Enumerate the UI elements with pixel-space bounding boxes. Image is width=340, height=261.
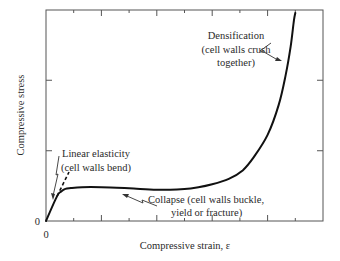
stress-strain-diagram: 0 0 Compressive strain, ε Compressive st… — [0, 0, 340, 261]
y-tick-label-0: 0 — [35, 216, 40, 227]
annotation-linear-elasticity: Linear elasticity (cell walls bend) — [51, 148, 131, 200]
annotation-densification-line-1: Densification — [208, 30, 265, 41]
annotation-collapse-line-2: yield or fracture) — [171, 207, 243, 219]
annotation-densification: Densification (cell walls crush together… — [202, 30, 282, 69]
x-axis-label: Compressive strain, ε — [140, 240, 231, 251]
annotation-densification-line-3: together) — [217, 57, 255, 69]
annotation-collapse: Collapse (cell walls buckle, yield or fr… — [122, 194, 264, 219]
annotation-linear-line-2: (cell walls bend) — [61, 162, 131, 174]
densification-arrowhead — [275, 57, 282, 61]
x-tick-label-0: 0 — [43, 229, 48, 240]
linear-elasticity-arrowhead — [51, 193, 55, 200]
annotation-collapse-line-1: Collapse (cell walls buckle, — [148, 194, 264, 206]
linear-elasticity-arrow — [53, 156, 59, 196]
y-axis-label: Compressive stress — [15, 75, 26, 156]
collapse-arrowhead — [122, 194, 129, 198]
annotation-linear-line-1: Linear elasticity — [62, 148, 131, 159]
